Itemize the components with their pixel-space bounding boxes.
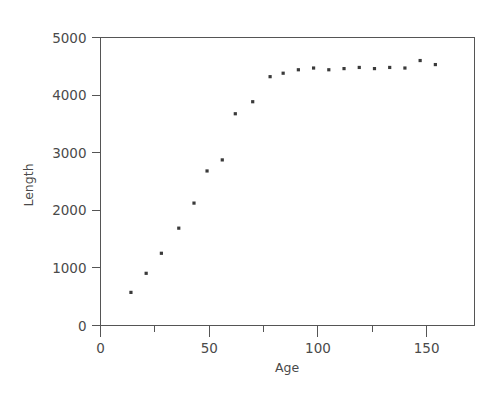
data-point: [358, 66, 361, 69]
y-tick-label: 4000: [52, 87, 86, 103]
data-point: [160, 252, 163, 255]
data-point: [129, 291, 132, 294]
data-point: [297, 68, 300, 71]
data-point: [282, 72, 285, 75]
data-point: [419, 59, 422, 62]
y-tick-label: 1000: [52, 260, 86, 276]
data-point: [327, 68, 330, 71]
data-point: [403, 66, 406, 69]
y-axis-title: Length: [21, 163, 36, 206]
data-point: [234, 112, 237, 115]
data-point: [388, 66, 391, 69]
figure-background: [0, 0, 503, 398]
data-point: [192, 202, 195, 205]
scatter-plot-figure: 050100150 010002000300040005000 Age Leng…: [0, 0, 503, 398]
y-tick-label: 2000: [52, 202, 86, 218]
y-tick-label: 3000: [52, 145, 86, 161]
y-tick-label: 0: [78, 318, 87, 334]
data-point: [221, 158, 224, 161]
x-axis-title: Age: [275, 360, 299, 375]
data-point: [269, 75, 272, 78]
data-point: [342, 67, 345, 70]
data-point: [434, 63, 437, 66]
data-point: [205, 169, 208, 172]
data-point: [312, 66, 315, 69]
x-tick-label: 50: [201, 340, 218, 356]
data-point: [177, 227, 180, 230]
data-point: [373, 67, 376, 70]
x-tick-label: 0: [96, 340, 105, 356]
x-tick-label: 150: [414, 340, 440, 356]
data-point: [145, 272, 148, 275]
data-point: [251, 100, 254, 103]
y-tick-label: 5000: [52, 30, 86, 46]
x-tick-label: 100: [305, 340, 331, 356]
plot-canvas: 050100150 010002000300040005000 Age Leng…: [0, 0, 503, 398]
